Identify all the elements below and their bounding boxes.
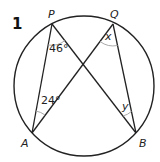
point-label-B: B <box>139 137 147 150</box>
chord-QB <box>113 24 136 133</box>
angle-label-P: 46° <box>49 42 69 55</box>
point-label-A: A <box>20 137 29 150</box>
chord-PB <box>52 24 136 133</box>
angle-label-Q: x <box>104 30 112 43</box>
angle-label-B: y <box>121 100 129 113</box>
point-label-P: P <box>48 8 55 21</box>
chord-PA <box>32 24 52 133</box>
circle <box>14 16 154 156</box>
angle-label-A: 24° <box>41 94 61 107</box>
circle-theorem-diagram: 1 46° 24° x y P Q A B <box>0 0 160 162</box>
problem-number: 1 <box>12 15 22 33</box>
point-label-Q: Q <box>110 8 119 21</box>
angle-arc-A <box>36 111 45 115</box>
chord-QA <box>32 24 113 133</box>
